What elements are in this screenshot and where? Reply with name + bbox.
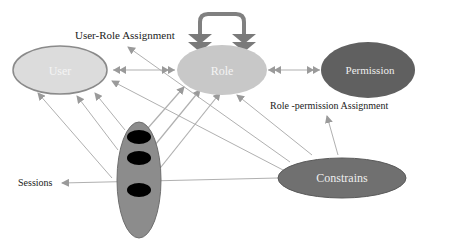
rbac-diagram [0, 0, 455, 246]
user-role-assignment-label: User-Role Assignment [75, 29, 175, 41]
session-dot [127, 151, 151, 165]
sessions-label: Sessions [18, 177, 52, 188]
permission-label: Permission [346, 64, 395, 76]
session-dot [127, 183, 151, 197]
role-permission-assignment-label: Role -permission Assignment [270, 100, 388, 111]
sessions-node [117, 122, 161, 238]
session-user-edges [38, 93, 125, 178]
role-label: Role [211, 64, 234, 79]
user-label: User [49, 64, 72, 79]
constrains-label: Constrains [316, 171, 367, 186]
session-dot [127, 130, 151, 144]
